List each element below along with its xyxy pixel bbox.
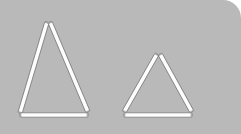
stick-body: [48, 21, 90, 113]
right-side-stick[interactable]: [48, 21, 90, 113]
stick-body: [124, 113, 192, 117]
right-side-stick[interactable]: [158, 53, 194, 113]
base-stick[interactable]: [20, 113, 88, 117]
stick-body: [158, 53, 194, 113]
stick-body: [18, 21, 49, 113]
left-side-stick[interactable]: [122, 53, 159, 113]
stick-body: [20, 113, 88, 117]
screenshot-stage: Matchstick triangles puzzle image: [0, 0, 241, 134]
stick-body: [122, 53, 159, 113]
small-triangle[interactable]: [122, 53, 194, 117]
matchstick-figures: [0, 0, 241, 134]
left-side-stick[interactable]: [18, 21, 49, 113]
base-stick[interactable]: [124, 113, 192, 117]
large-triangle[interactable]: [18, 21, 90, 117]
